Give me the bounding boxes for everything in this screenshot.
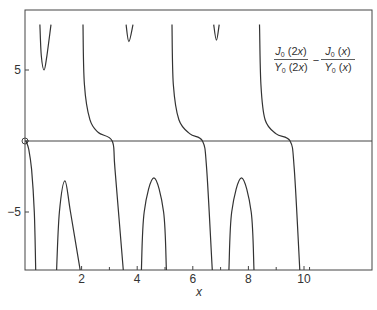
legend-denominator: Y0 (2x) (274, 61, 307, 74)
legend-numerator: J0 (x) (324, 45, 350, 58)
curve-segment (26, 141, 36, 270)
legend-minus: − (313, 54, 319, 66)
curve-segment (57, 181, 81, 270)
x-tick-label: 4 (134, 272, 141, 286)
x-tick-label: 2 (78, 272, 85, 286)
curve-segment (40, 25, 51, 70)
legend-right-fraction: J0 (x)Y0 (x) (321, 45, 355, 74)
curve-segment (172, 25, 212, 271)
legend: J0 (2x)Y0 (2x)−J0 (x)Y0 (x) (274, 45, 355, 74)
plot-border (25, 10, 372, 270)
y-tick-label: −5 (7, 205, 21, 219)
curve-segment (214, 25, 220, 41)
curve-segment (126, 25, 133, 42)
y-tick-label: 5 (14, 63, 21, 77)
x-axis-label: x (195, 285, 203, 299)
plot-frame (22, 10, 372, 270)
x-tick-label: 8 (245, 272, 252, 286)
legend-left-fraction: J0 (2x)Y0 (2x) (274, 45, 308, 74)
axis-ticks: 2468105−5 (7, 63, 311, 286)
legend-numerator: J0 (2x) (274, 45, 306, 58)
curve-segment (229, 178, 254, 270)
x-tick-label: 6 (189, 272, 196, 286)
x-tick-label: 10 (297, 272, 311, 286)
chart: 2468105−5 J0 (2x)Y0 (2x)−J0 (x)Y0 (x) x (0, 0, 377, 310)
curve-segment (83, 25, 123, 271)
curve-segment (141, 178, 166, 270)
data-curves (26, 25, 300, 271)
legend-denominator: Y0 (x) (324, 61, 351, 74)
